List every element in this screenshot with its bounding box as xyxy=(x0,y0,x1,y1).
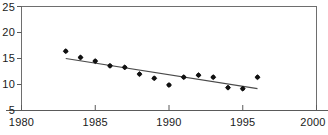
ytick-label-10: 10 xyxy=(2,78,15,90)
y-tick-marks xyxy=(17,7,22,111)
data-point-core xyxy=(197,73,201,77)
data-point-core xyxy=(256,75,260,79)
xtick-label-2000: 2000 xyxy=(300,116,325,128)
xtick-label-1995: 1995 xyxy=(230,116,255,128)
data-point-core xyxy=(123,65,127,69)
data-point-core xyxy=(241,87,245,91)
data-point-core xyxy=(152,76,156,80)
data-point-core xyxy=(211,75,215,79)
chart-container: 5 10 15 20 25 1980 1985 1990 1995 2000 xyxy=(0,0,328,135)
data-point-core xyxy=(226,86,230,90)
ytick-label-20: 20 xyxy=(2,26,15,38)
ytick-label-5: 5 xyxy=(9,104,15,116)
xtick-label-1980: 1980 xyxy=(9,116,34,128)
xtick-label-1990: 1990 xyxy=(156,116,181,128)
scatter-chart: 5 10 15 20 25 1980 1985 1990 1995 2000 xyxy=(0,0,328,135)
data-point-core xyxy=(108,64,112,68)
data-point-core xyxy=(138,72,142,76)
x-tick-marks xyxy=(22,105,317,111)
ytick-label-15: 15 xyxy=(2,52,15,64)
data-point-core xyxy=(79,56,83,60)
xtick-label-1985: 1985 xyxy=(83,116,108,128)
ytick-label-25: 25 xyxy=(2,1,15,13)
data-point-core xyxy=(64,49,68,53)
data-point-core xyxy=(182,75,186,79)
data-point-core xyxy=(167,83,171,87)
data-point-core xyxy=(93,59,97,63)
